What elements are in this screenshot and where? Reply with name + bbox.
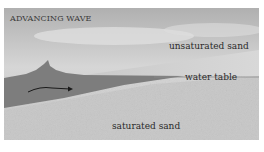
advancing-wave-diagram: ADVANCING WAVE unsaturated sand water ta… <box>4 8 259 140</box>
unsaturated-sand-label: unsaturated sand <box>169 42 249 51</box>
diagram-title: ADVANCING WAVE <box>10 15 92 23</box>
water-table-label: water table <box>185 73 237 82</box>
saturated-sand-label: saturated sand <box>112 122 180 131</box>
